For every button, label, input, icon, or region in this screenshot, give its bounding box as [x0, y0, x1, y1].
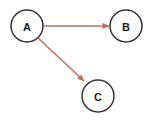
edge-a-to-c[interactable]	[38, 38, 84, 81]
node-b-label: B	[122, 21, 130, 33]
graph-svg: A B C	[0, 0, 153, 124]
edge-group	[38, 26, 109, 81]
node-c[interactable]: C	[82, 80, 114, 112]
node-b[interactable]: B	[110, 10, 142, 42]
node-c-label: C	[94, 91, 102, 103]
node-a-label: A	[23, 21, 31, 33]
diagram-canvas: A B C	[0, 0, 153, 124]
node-a[interactable]: A	[11, 10, 43, 42]
